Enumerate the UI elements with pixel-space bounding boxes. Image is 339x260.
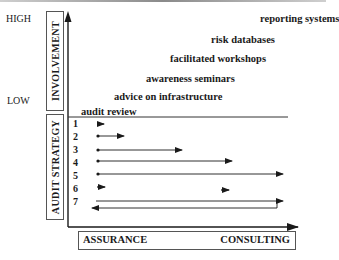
- assurance-consulting-box: ASSURANCE CONSULTING: [78, 231, 296, 250]
- strategy-6-arrows: [97, 187, 229, 190]
- strategy-3-arrow: [96, 148, 182, 151]
- strategy-5-arrow: [96, 172, 283, 175]
- strategy-7-loop-arrow: [92, 201, 283, 208]
- assurance-label: ASSURANCE: [83, 234, 147, 245]
- up-arrow-icon: [65, 11, 72, 22]
- strategy-2-arrow: [96, 134, 124, 137]
- strategy-4-arrow: [96, 159, 232, 162]
- consulting-label: CONSULTING: [220, 234, 290, 245]
- vertical-axis: [65, 11, 72, 227]
